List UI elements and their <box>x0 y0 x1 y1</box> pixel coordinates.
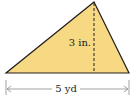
triangle-diagram: 3 in. 5 yd <box>0 0 133 96</box>
base-label: 5 yd <box>55 83 77 94</box>
triangle-shape <box>6 2 129 73</box>
height-label: 3 in. <box>69 37 91 48</box>
